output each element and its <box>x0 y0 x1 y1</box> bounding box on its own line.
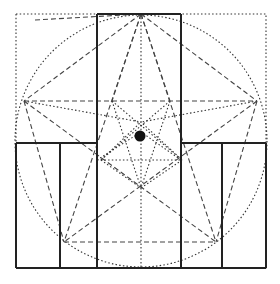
dashed-line <box>24 14 141 101</box>
dotted-line <box>112 101 141 188</box>
geometric-diagram <box>0 0 280 284</box>
dotted-line <box>97 132 141 160</box>
dashed-line <box>24 101 216 242</box>
dashed-line <box>64 101 257 242</box>
dashed-line <box>141 14 257 101</box>
dotted-line <box>101 122 141 160</box>
dotted-line <box>141 122 182 160</box>
dotted-line <box>112 101 182 160</box>
dotted-line <box>141 132 181 160</box>
dashed-line <box>24 101 64 242</box>
dotted-line <box>24 101 141 122</box>
dotted-line <box>101 101 170 160</box>
dashed-line <box>141 14 170 101</box>
dashed-line <box>112 14 141 101</box>
center-dot <box>135 131 146 142</box>
dotted-line <box>141 160 182 188</box>
dotted-line <box>101 160 141 188</box>
